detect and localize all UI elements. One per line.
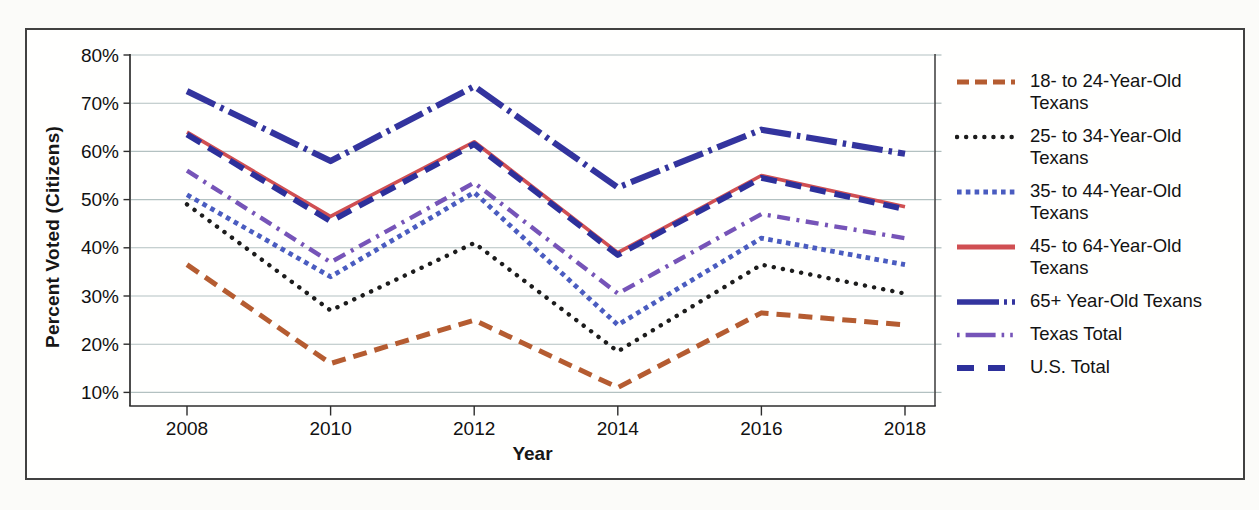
x-tick-label: 2018 bbox=[884, 418, 926, 439]
figure-frame: 80%70%60%50%40%30%20%10%2008201020122014… bbox=[25, 28, 1245, 480]
y-tick-label: 30% bbox=[81, 286, 119, 307]
legend-item: 65+ Year-Old Texans bbox=[955, 290, 1243, 312]
legend-label-line: 18- to 24-Year-Old bbox=[1030, 70, 1182, 92]
legend-label: 35- to 44-Year-OldTexans bbox=[1030, 180, 1182, 224]
x-tick-label: 2014 bbox=[597, 418, 640, 439]
x-tick-label: 2012 bbox=[453, 418, 495, 439]
legend-label-line: 45- to 64-Year-Old bbox=[1030, 235, 1182, 257]
legend-label: 25- to 34-Year-OldTexans bbox=[1030, 125, 1182, 169]
legend-label-line: 65+ Year-Old Texans bbox=[1030, 290, 1202, 312]
legend-item: U.S. Total bbox=[955, 356, 1243, 378]
y-tick-label: 60% bbox=[81, 141, 119, 162]
page: { "chart_data": { "type": "line", "title… bbox=[0, 0, 1259, 510]
legend-label-line: Texas Total bbox=[1030, 323, 1122, 345]
legend-label: 65+ Year-Old Texans bbox=[1030, 290, 1202, 312]
legend-swatch-dotted-square-icon bbox=[955, 185, 1017, 199]
y-tick-label: 40% bbox=[81, 237, 119, 258]
y-tick-label: 50% bbox=[81, 189, 119, 210]
legend-label: Texas Total bbox=[1030, 323, 1122, 345]
series-line-45-to-64-year-old-texans bbox=[187, 132, 905, 253]
legend-swatch-dash-dot-icon bbox=[955, 328, 1017, 342]
legend-swatch-longdash-dot-icon bbox=[955, 295, 1017, 309]
y-tick-label: 70% bbox=[81, 93, 119, 114]
legend-label-line: 35- to 44-Year-Old bbox=[1030, 180, 1182, 202]
series-line-18-to-24-year-old-texans bbox=[187, 265, 905, 388]
series-line-65-year-old-texans bbox=[187, 86, 905, 187]
legend-swatch-dash-icon bbox=[955, 361, 1017, 375]
legend-label-line: U.S. Total bbox=[1030, 356, 1110, 378]
legend-item: 25- to 34-Year-OldTexans bbox=[955, 125, 1243, 169]
legend-label: U.S. Total bbox=[1030, 356, 1110, 378]
legend-label-line: Texans bbox=[1030, 92, 1182, 114]
legend-item: 18- to 24-Year-OldTexans bbox=[955, 70, 1243, 114]
legend-label-line: 25- to 34-Year-Old bbox=[1030, 125, 1182, 147]
series-line-35-to-44-year-old-texans bbox=[187, 192, 905, 325]
y-axis-title: Percent Voted (Citizens) bbox=[42, 77, 68, 397]
legend-swatch-solid-icon bbox=[955, 240, 1017, 254]
y-tick-label: 80% bbox=[81, 45, 119, 66]
legend-item: Texas Total bbox=[955, 323, 1243, 345]
legend-label-line: Texans bbox=[1030, 257, 1182, 279]
legend: 18- to 24-Year-OldTexans25- to 34-Year-O… bbox=[955, 70, 1243, 378]
series-line-25-to-34-year-old-texans bbox=[187, 204, 905, 351]
legend-label-line: Texans bbox=[1030, 202, 1182, 224]
legend-swatch-dashed-icon bbox=[955, 75, 1017, 89]
x-axis-title: Year bbox=[130, 443, 935, 465]
series-line-texas-total bbox=[187, 171, 905, 294]
legend-item: 45- to 64-Year-OldTexans bbox=[955, 235, 1243, 279]
x-tick-label: 2008 bbox=[166, 418, 208, 439]
x-tick-label: 2010 bbox=[309, 418, 351, 439]
legend-swatch-dotted-round-icon bbox=[955, 130, 1017, 144]
legend-label-line: Texans bbox=[1030, 147, 1182, 169]
legend-label: 18- to 24-Year-OldTexans bbox=[1030, 70, 1182, 114]
legend-label: 45- to 64-Year-OldTexans bbox=[1030, 235, 1182, 279]
legend-item: 35- to 44-Year-OldTexans bbox=[955, 180, 1243, 224]
y-tick-label: 10% bbox=[81, 382, 119, 403]
y-tick-label: 20% bbox=[81, 334, 119, 355]
x-tick-label: 2016 bbox=[740, 418, 782, 439]
